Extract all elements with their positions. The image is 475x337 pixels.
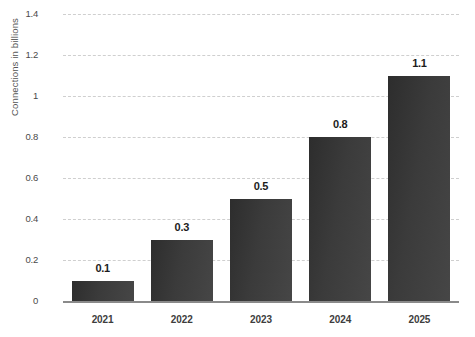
y-axis-tick-label: 1.4 [8, 8, 38, 19]
y-axis-tick-label: 0.6 [8, 172, 38, 183]
x-axis-tick-label: 2023 [226, 314, 296, 325]
x-axis-tick-label: 2025 [384, 314, 454, 325]
bar-value-label: 1.1 [389, 57, 449, 69]
x-axis-tick-label: 2021 [68, 314, 138, 325]
bar-value-label: 0.8 [310, 118, 370, 130]
y-axis-tick-label: 0.4 [8, 213, 38, 224]
bar[interactable] [72, 281, 134, 302]
y-axis-tick-label: 0.8 [8, 131, 38, 142]
bar-value-label: 0.1 [73, 262, 133, 274]
bar-value-label: 0.3 [152, 221, 212, 233]
gridline [63, 14, 459, 15]
y-axis-tick-label: 0.2 [8, 254, 38, 265]
plot-area: 00.20.40.60.811.21.4 0.10.30.50.81.1 202… [63, 8, 459, 303]
x-axis-tick-label: 2024 [305, 314, 375, 325]
x-axis-line [63, 301, 459, 303]
x-axis-tick-label: 2022 [147, 314, 217, 325]
y-axis-tick-label: 1 [8, 90, 38, 101]
bar[interactable] [230, 199, 292, 302]
bar[interactable] [151, 240, 213, 302]
y-axis-tick-label: 0 [8, 295, 38, 306]
y-axis-tick-label: 1.2 [8, 49, 38, 60]
bar[interactable] [309, 137, 371, 301]
bar-chart: Connections in billions 00.20.40.60.811.… [0, 0, 475, 337]
bar[interactable] [388, 76, 450, 302]
bar-value-label: 0.5 [231, 180, 291, 192]
